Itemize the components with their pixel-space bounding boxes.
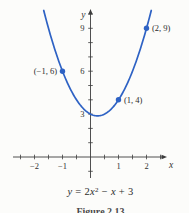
equation-segment: − [99, 186, 111, 197]
x-axis-label: x [168, 160, 174, 170]
figure-label: Figure 2.13 [12, 206, 189, 213]
parabola-graph: −2−112369xy(−1, 6)(1, 4)(2, 9) [0, 0, 189, 213]
x-axis-arrow [162, 155, 168, 160]
equation-caption: y = 2x2 − x + 3 [12, 186, 189, 197]
data-point [144, 26, 149, 31]
x-tick-label: 2 [144, 161, 148, 171]
point-label: (−1, 6) [34, 66, 57, 76]
x-tick-label: −2 [30, 161, 39, 171]
y-tick-label: 3 [80, 109, 84, 119]
point-label: (1, 4) [124, 95, 143, 105]
x-tick-label: 1 [116, 161, 120, 171]
equation-segment: 2 [95, 186, 99, 194]
equation-segment: + 3 [116, 186, 134, 197]
data-point [60, 69, 65, 74]
equation-segment: = 2 [72, 186, 90, 197]
point-label: (2, 9) [152, 23, 171, 33]
x-tick-label: −1 [58, 161, 67, 171]
y-axis-label: y [80, 10, 86, 20]
y-tick-label: 6 [80, 66, 84, 76]
function-graph-figure: −2−112369xy(−1, 6)(1, 4)(2, 9) y = 2x2 −… [0, 0, 189, 213]
y-tick-label: 9 [80, 23, 84, 33]
data-point [116, 97, 121, 102]
